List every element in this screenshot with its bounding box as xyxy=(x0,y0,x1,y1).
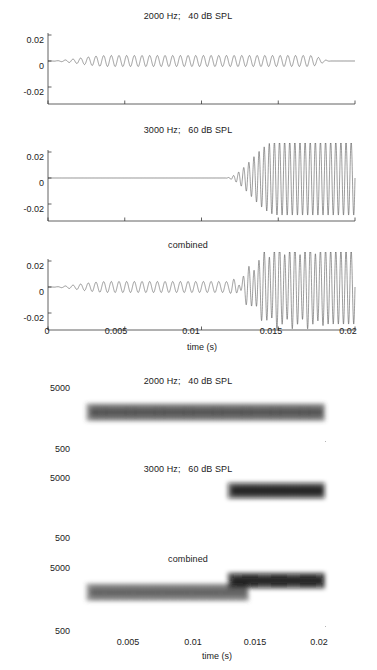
waveform-panel-1-ytick-mid: 0 xyxy=(6,61,44,71)
spectrogram-panel-2-plot xyxy=(80,476,330,542)
spectrogram-panel-1-title: 2000 Hz; 40 dB SPL xyxy=(98,376,278,386)
waveform-panel-3-ytick-mid: 0 xyxy=(6,287,44,297)
waveform-panel-2-ytick-mid: 0 xyxy=(6,178,44,188)
spectrogram-panel-3-title: combined xyxy=(98,554,278,564)
spectrogram-panel-3-ytick-bot: 500 xyxy=(36,626,70,636)
spectrogram-panel-3-plot xyxy=(80,566,330,632)
spectrogram-panel-1-ytick-bot: 500 xyxy=(36,444,70,454)
spectrogram-panel-1-ytick-top: 5000 xyxy=(36,383,70,393)
spectrogram-xtick-1: 0.01 xyxy=(174,637,212,647)
spectrogram-panel-2-ytick-top: 5000 xyxy=(36,473,70,483)
waveform-xtick-1: 0.005 xyxy=(95,326,137,336)
spectrogram-xtick-3: 0.02 xyxy=(300,637,338,647)
waveform-xtick-3: 0.015 xyxy=(250,326,292,336)
waveform-panel-1-ytick-top: 0.02 xyxy=(6,35,44,45)
waveform-panel-3-ytick-top: 0.02 xyxy=(6,261,44,271)
waveform-xtick-2: 0.01 xyxy=(172,326,210,336)
spectrogram-panel-3-ytick-top: 5000 xyxy=(36,563,70,573)
spectrogram-panel-2-ytick-bot: 500 xyxy=(36,533,70,543)
waveform-panel-3-title: combined xyxy=(98,240,278,250)
artifact-dot-2 xyxy=(325,626,326,627)
waveform-panel-3-ytick-bot: -0.02 xyxy=(2,313,44,323)
waveform-panel-2-ytick-bot: -0.02 xyxy=(2,204,44,214)
waveform-panel-1-ytick-bot: -0.02 xyxy=(2,87,44,97)
waveform-panel-2-plot xyxy=(47,143,357,233)
spectrogram-panel-1-plot xyxy=(80,386,330,452)
waveform-panel-1-title: 2000 Hz; 40 dB SPL xyxy=(98,11,278,21)
waveform-xaxis-label: time (s) xyxy=(152,342,252,352)
spectrogram-xaxis-label: time (s) xyxy=(167,651,267,661)
artifact-dot-1 xyxy=(325,441,326,442)
waveform-panel-2-ytick-top: 0.02 xyxy=(6,152,44,162)
waveform-xtick-4: 0.02 xyxy=(329,326,367,336)
spectrogram-xtick-2: 0.015 xyxy=(234,637,276,647)
waveform-panel-2-title: 3000 Hz; 60 dB SPL xyxy=(98,125,278,135)
spectrogram-xtick-0: 0.005 xyxy=(107,637,149,647)
figure-root: 2000 Hz; 40 dB SPL 0.02 0 -0.02 3000 Hz;… xyxy=(0,0,377,670)
waveform-panel-1-plot xyxy=(47,26,357,116)
waveform-xtick-0: 0 xyxy=(33,326,61,336)
spectrogram-panel-2-title: 3000 Hz; 60 dB SPL xyxy=(98,464,278,474)
